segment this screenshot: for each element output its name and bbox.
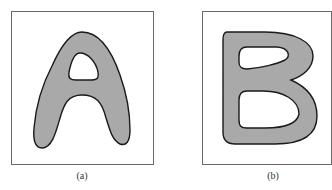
letter-a-shape bbox=[0, 0, 165, 170]
panel-a: (a) bbox=[0, 0, 165, 190]
panel-b: (b) bbox=[165, 0, 320, 190]
panel-b-caption: (b) bbox=[261, 170, 285, 181]
letter-b-shape bbox=[165, 0, 320, 170]
panel-a-caption: (a) bbox=[70, 170, 94, 181]
